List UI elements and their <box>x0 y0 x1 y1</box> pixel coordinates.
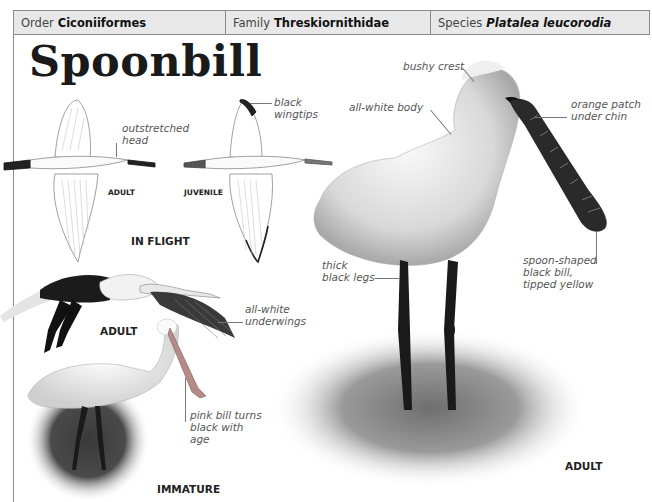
annotation-all-white-body: all-white body <box>349 101 423 113</box>
leader-line <box>375 278 400 279</box>
leader-line <box>535 117 567 118</box>
caption-adult-flying: ADULT <box>100 325 137 337</box>
caption-in-flight: IN FLIGHT <box>131 235 190 247</box>
leader-line <box>250 103 272 104</box>
annotation-pink-bill: pink bill turns black with age <box>190 409 262 445</box>
leader-line <box>218 322 243 323</box>
caption-adult-flight: ADULT <box>108 188 135 197</box>
immature-photo <box>26 319 206 502</box>
adult-flying-photo <box>0 275 235 354</box>
caption-adult-standing: ADULT <box>565 460 602 472</box>
juvenile-flight-drawing <box>184 100 332 262</box>
annotation-thick-legs: thick black legs <box>322 259 375 283</box>
annotation-black-wingtips: black wingtips <box>274 96 318 120</box>
annotation-underwings: all-white underwings <box>245 303 306 327</box>
leader-line <box>116 143 117 157</box>
annotation-bushy-crest: bushy crest <box>403 60 464 72</box>
caption-immature: IMMATURE <box>157 483 220 495</box>
annotation-orange-patch: orange patch under chin <box>571 98 641 122</box>
leader-line <box>185 378 186 422</box>
annotation-outstretched-head: outstretched head <box>122 122 189 146</box>
leader-line <box>596 232 597 264</box>
caption-juvenile-flight: JUVENILE <box>184 188 223 197</box>
annotation-spoon-bill: spoon-shaped black bill, tipped yellow <box>523 254 597 290</box>
spoonbill-illustrations <box>0 0 652 502</box>
